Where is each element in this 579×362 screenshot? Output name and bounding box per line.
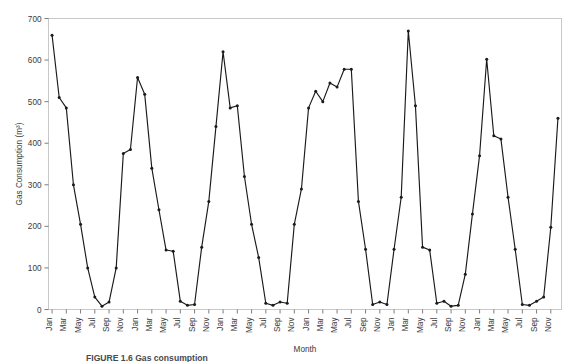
data-point [314,90,317,93]
data-point [485,58,488,61]
y-tick-label: 300 [28,181,42,190]
x-tick-label: May [159,317,168,333]
data-point [193,303,196,306]
data-point [514,248,517,251]
x-tick-label: Mar [401,317,410,331]
x-tick-label: Nov [544,317,553,332]
data-point [243,175,246,178]
x-tick-label: Jan [216,317,225,331]
data-point [428,249,431,252]
data-point [293,223,296,226]
x-tick-label: Nov [116,317,125,332]
svg-text:Gas Consumption (m³): Gas Consumption (m³) [15,122,24,205]
data-point [65,106,68,109]
data-point [264,302,267,305]
figure-caption: FIGURE 1.6 Gas consumption [86,353,208,362]
x-axis-title: Month [294,345,317,354]
x-tick-label: May [74,317,83,333]
data-point [407,29,410,32]
x-tick-label: Jul [88,317,97,328]
y-tick-label: 500 [28,98,42,107]
x-tick-label: Nov [202,317,211,332]
data-point [51,34,54,37]
data-point [236,104,239,107]
x-tick-label: Mar [230,317,239,331]
data-point [400,196,403,199]
x-tick-label: Jan [131,317,140,331]
x-tick-label: Jul [259,317,268,328]
x-tick-label: Nov [373,317,382,332]
data-point [528,304,531,307]
data-point [115,266,118,269]
data-point [371,303,374,306]
data-point [321,100,324,103]
data-point [492,134,495,137]
data-point [385,303,388,306]
data-point [143,93,146,96]
data-point [179,300,182,303]
data-point [542,296,545,299]
data-point [150,167,153,170]
y-tick-label: 400 [28,139,42,148]
x-tick-label: Sep [102,317,111,332]
data-point [328,81,331,84]
x-tick-label: Mar [145,317,154,331]
data-point [393,248,396,251]
x-tick-label: May [501,317,510,333]
data-point [165,249,168,252]
x-tick-label: Jan [45,317,54,331]
data-point [357,200,360,203]
data-point [86,266,89,269]
x-tick-label: Mar [487,317,496,331]
x-tick-label: Sep [359,317,368,332]
y-tick-label: 200 [28,222,42,231]
data-point [257,256,260,259]
data-point [122,152,125,155]
data-point [186,304,189,307]
data-point [364,248,367,251]
data-point [172,250,175,253]
x-tick-label: Nov [458,317,467,332]
data-point [414,104,417,107]
data-point [229,106,232,109]
data-point [279,301,282,304]
x-tick-label: Jul [515,317,524,328]
data-point [507,196,510,199]
data-point [450,305,453,308]
x-tick-label: May [330,317,339,333]
data-point [100,305,103,308]
data-point [271,304,274,307]
data-point [556,117,559,120]
data-point [336,86,339,89]
data-point [435,302,438,305]
x-tick-label: May [416,317,425,333]
x-tick-label: Mar [59,317,68,331]
x-tick-label: Sep [444,317,453,332]
data-point [499,138,502,141]
x-tick-label: Mar [316,317,325,331]
data-point [214,125,217,128]
data-point [307,106,310,109]
x-tick-label: Jul [173,317,182,328]
data-point [421,246,424,249]
x-tick-label: Jan [473,317,482,331]
data-point [136,76,139,79]
x-tick-label: Jul [344,317,353,328]
x-tick-label: Jan [387,317,396,331]
data-point [58,96,61,99]
data-point [93,296,96,299]
data-point [521,303,524,306]
x-tick-label: Sep [273,317,282,332]
x-tick-label: Sep [188,317,197,332]
gas-consumption-chart: 0100200300400500600700 JanMarMayJulSepNo… [0,0,579,362]
data-point [300,187,303,190]
data-point [478,154,481,157]
data-point [250,223,253,226]
data-point [442,300,445,303]
data-point [286,302,289,305]
data-point [464,273,467,276]
y-tick-label: 600 [28,56,42,65]
data-point [343,68,346,71]
x-tick-label: Jan [302,317,311,331]
y-tick-label: 0 [37,306,42,315]
